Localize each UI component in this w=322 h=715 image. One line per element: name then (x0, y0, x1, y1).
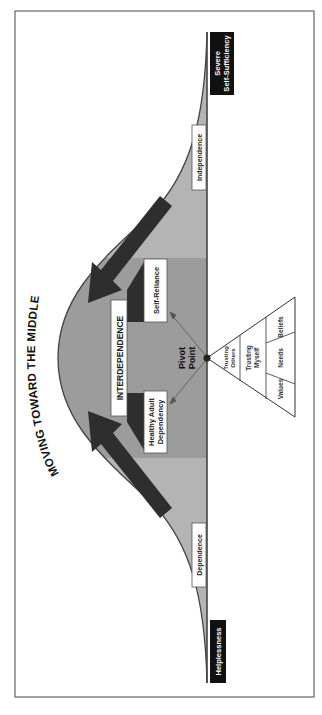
svg-text:Helplessness: Helplessness (214, 628, 223, 676)
svg-text:Trusting: Trusting (245, 345, 253, 371)
svg-text:Values: Values (277, 378, 284, 399)
svg-text:Others: Others (230, 348, 236, 368)
healthy-adult-dependency-label: Healthy Adult Dependency (144, 391, 167, 453)
svg-text:Point: Point (187, 347, 197, 370)
svg-text:Dependence: Dependence (196, 534, 204, 576)
dependence-label: Dependence (192, 523, 206, 587)
svg-text:Healthy Adult: Healthy Adult (147, 397, 156, 446)
svg-text:Dependency: Dependency (156, 399, 165, 444)
svg-text:Independence: Independence (196, 134, 204, 181)
svg-text:Severe: Severe (213, 51, 222, 76)
svg-text:Pivot: Pivot (177, 347, 187, 369)
svg-text:Self-Sufficiency: Self-Sufficiency (222, 35, 231, 92)
helplessness-label: Helplessness (210, 620, 226, 683)
self-reliance-label: Self-Reliance (144, 259, 167, 322)
svg-text:Myself: Myself (253, 347, 261, 368)
diagram: MOVING TOWARD THE MIDDLE Severe Self-Suf… (0, 0, 322, 715)
svg-text:Trusting: Trusting (223, 346, 229, 370)
pivot-dot (204, 355, 211, 362)
pivot-point-label: Pivot Point (177, 347, 197, 370)
independence-label: Independence (192, 125, 206, 190)
svg-text:INTERDEPENDENCE: INTERDEPENDENCE (115, 315, 125, 400)
severe-self-sufficiency-label: Severe Self-Sufficiency (210, 32, 234, 95)
svg-text:Self-Reliance: Self-Reliance (152, 267, 161, 314)
svg-text:Needs: Needs (277, 348, 284, 368)
interdependence-label: INTERDEPENDENCE (111, 300, 127, 416)
svg-text:Beliefs: Beliefs (277, 316, 284, 338)
